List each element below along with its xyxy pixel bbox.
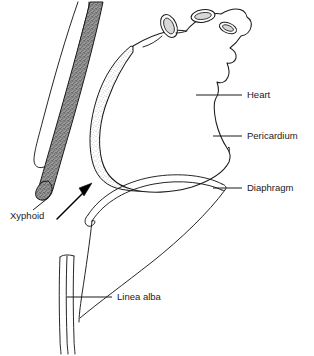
label-heart: Heart (247, 89, 271, 100)
label-diaphragm: Diaphragm (247, 182, 294, 193)
label-xyphoid: Xyphoid (10, 210, 44, 221)
label-pericardium: Pericardium (247, 130, 298, 141)
anatomy-illustration: Heart Pericardium Diaphragm Xyphoid Line… (0, 0, 314, 356)
label-linea-alba: Linea alba (117, 291, 162, 302)
anatomy-figure: Heart Pericardium Diaphragm Xyphoid Line… (0, 0, 314, 356)
